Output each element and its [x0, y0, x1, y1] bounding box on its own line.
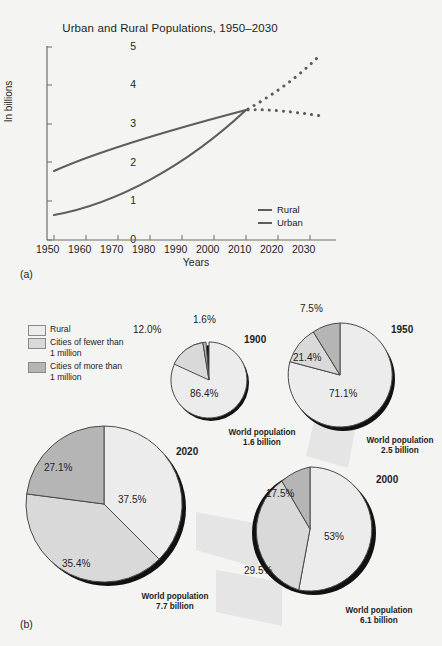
panel-b-pie-charts: Rural Cities of fewer than 1 million Cit…	[0, 288, 442, 646]
legend-item-rural: Rural	[258, 203, 303, 216]
pie-2020-large-cities-pct: 27.1%	[44, 462, 72, 473]
pie-legend-label-small-cities: Cities of fewer than 1 million	[50, 337, 124, 360]
line-chart-title: Urban and Rural Populations, 1950–2030	[0, 22, 340, 34]
pie-2020-rural-pct: 37.5%	[118, 494, 146, 505]
legend-label-rural: Rural	[277, 204, 300, 215]
pie-1900-rural-pct: 86.4%	[190, 388, 218, 399]
pie-legend-item-rural: Rural	[28, 324, 124, 336]
pie-2020-svg	[12, 410, 212, 610]
pie-legend-label-rural: Rural	[50, 324, 71, 335]
pie-1950-svg	[283, 304, 442, 454]
x-tick-2010: 2010	[228, 243, 251, 255]
pie-legend-item-large-cities: Cities of more than 1 million	[28, 361, 124, 384]
x-tick-1970: 1970	[100, 243, 123, 255]
panel-a-line-chart: Urban and Rural Populations, 1950–2030 I…	[0, 0, 442, 288]
x-tick-marks	[54, 235, 310, 240]
x-tick-2000: 2000	[196, 243, 219, 255]
pie-legend-item-small-cities: Cities of fewer than 1 million	[28, 337, 124, 360]
legend-swatch-rural-icon	[258, 209, 272, 211]
pie-2000-year: 2000	[376, 474, 398, 485]
x-tick-1990: 1990	[164, 243, 187, 255]
y-tick-marks	[47, 47, 52, 240]
urban-line-dotted	[248, 57, 318, 109]
line-chart-y-axis-label: In billions	[3, 81, 14, 123]
pie-1950-year: 1950	[391, 324, 413, 335]
x-tick-2030: 2030	[292, 243, 315, 255]
pie-2000-large-cities-pct: 17.5%	[266, 488, 294, 499]
pie-1900-small-cities-pct: 12.0%	[133, 324, 161, 335]
pie-legend-swatch-large-cities-icon	[28, 362, 46, 373]
pie-1950-large-cities-pct: 7.5%	[300, 303, 323, 314]
line-chart-legend: Rural Urban	[258, 203, 303, 229]
x-tick-1980: 1980	[132, 243, 155, 255]
panel-a-label: (a)	[20, 268, 33, 280]
pie-1900-large-cities-pct: 1.6%	[193, 314, 216, 325]
legend-label-urban: Urban	[277, 217, 303, 228]
pie-chart-2020: 2020 37.5% 35.4% 27.1% World population …	[12, 410, 212, 610]
pie-1900-year: 1900	[244, 334, 266, 345]
pie-2000-population: World population 6.1 billion	[324, 606, 434, 626]
x-tick-1950: 1950	[36, 243, 59, 255]
legend-item-urban: Urban	[258, 216, 303, 229]
line-chart-x-axis-label: Years	[46, 256, 346, 268]
pie-2020-population: World population 7.7 billion	[120, 592, 230, 612]
x-tick-2020: 2020	[260, 243, 283, 255]
pie-legend-swatch-small-cities-icon	[28, 338, 46, 349]
pie-2020-small-cities-pct: 35.4%	[62, 558, 90, 569]
pie-2020-year: 2020	[176, 446, 198, 457]
pie-1950-small-cities-pct: 21.4%	[293, 352, 321, 363]
pie-legend: Rural Cities of fewer than 1 million Cit…	[28, 324, 124, 385]
pie-2000-rural-pct: 53%	[324, 531, 344, 542]
rural-line-solid	[54, 110, 246, 171]
pie-chart-2000: 2000 53% 29.5% 17.5% World population 6.…	[248, 448, 438, 628]
panel-b-label: (b)	[20, 618, 33, 630]
pie-legend-label-large-cities: Cities of more than 1 million	[50, 361, 122, 384]
urban-line-solid	[54, 110, 246, 215]
legend-swatch-urban-icon	[258, 222, 272, 224]
pie-chart-1950: 1950 71.1% 21.4% 7.5% World population 2…	[283, 304, 442, 454]
pie-legend-swatch-rural-icon	[28, 325, 46, 336]
rural-line-dotted	[248, 110, 322, 116]
pie-1950-rural-pct: 71.1%	[329, 388, 357, 399]
pie-2000-small-cities-pct: 29.5%	[244, 565, 272, 576]
x-tick-1960: 1960	[68, 243, 91, 255]
